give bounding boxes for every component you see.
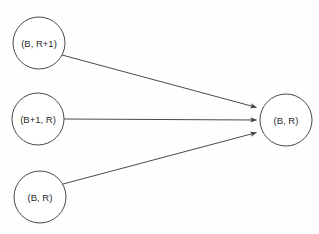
node-label: (B+1, R) bbox=[20, 114, 56, 125]
node-label: (B, R) bbox=[274, 115, 299, 126]
node-label: (B, R) bbox=[28, 192, 53, 203]
node-b-r-target[interactable]: (B, R) bbox=[260, 94, 312, 146]
diagram-canvas: (B, R+1) (B+1, R) (B, R) (B, R) bbox=[0, 0, 319, 234]
edge-middle-to-target bbox=[64, 119, 257, 120]
node-b-r-source[interactable]: (B, R) bbox=[14, 171, 66, 223]
edge-bottom-to-target bbox=[63, 133, 257, 184]
node-bplus1-r[interactable]: (B+1, R) bbox=[12, 93, 64, 145]
edge-group bbox=[62, 55, 257, 184]
node-b-rplus1[interactable]: (B, R+1) bbox=[13, 17, 65, 69]
diagram-svg: (B, R+1) (B+1, R) (B, R) (B, R) bbox=[0, 0, 319, 234]
node-label: (B, R+1) bbox=[21, 38, 57, 49]
edge-top-to-target bbox=[62, 55, 257, 107]
